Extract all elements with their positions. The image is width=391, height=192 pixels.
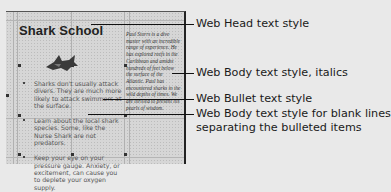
- callout-line: [172, 73, 194, 74]
- callout-line: [91, 24, 182, 25]
- layout-guide: [13, 12, 14, 164]
- blank-line: [20, 146, 125, 154]
- callout-line: [88, 114, 194, 115]
- shark-icon: [45, 52, 79, 74]
- callout-web-body-blank-2: separating the bulleted items: [196, 121, 362, 134]
- callout-web-head: Web Head text style: [196, 17, 309, 30]
- callout-web-bullet: Web Bullet text style: [196, 92, 312, 105]
- bullet-item: Learn about the local shark species. Som…: [20, 117, 125, 146]
- callout-web-body-italics: Web Body text style, italics: [196, 66, 348, 79]
- bullet-item: Keep your eye on your pressure gauge. An…: [20, 154, 125, 190]
- callout-line: [103, 99, 194, 100]
- web-head-text: Shark School: [19, 23, 103, 38]
- callout-web-body-blank: Web Body text style for blank lines: [196, 107, 391, 120]
- cell-handle: [18, 64, 21, 67]
- callout-line: [182, 24, 194, 25]
- layout-guide: [17, 12, 18, 164]
- cell-handle: [6, 94, 9, 97]
- bullet-item: Sharks don't usually attack divers. They…: [20, 80, 125, 109]
- layout-guide: [6, 20, 184, 21]
- bullet-list: Sharks don't usually attack divers. They…: [20, 80, 125, 191]
